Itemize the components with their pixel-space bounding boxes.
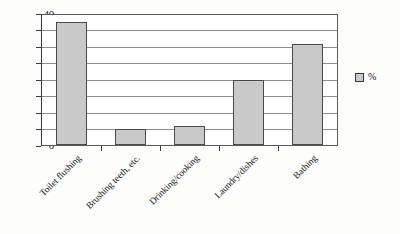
bar-brushing-teeth-etc[interactable]: [115, 129, 147, 145]
bar-slot: [42, 15, 101, 145]
x-axis-tick-mark: [278, 146, 279, 151]
bar-series: [42, 15, 337, 145]
legend: %: [355, 72, 376, 82]
x-axis-tick-mark: [101, 146, 102, 151]
x-axis-tick-mark: [160, 146, 161, 151]
x-axis-tick-mark: [219, 146, 220, 151]
bar-laundry-dishes[interactable]: [233, 80, 265, 145]
bar-drinking-cooking[interactable]: [174, 126, 206, 146]
bar-slot: [101, 15, 160, 145]
bar-bathing[interactable]: [292, 44, 324, 145]
legend-swatch-icon: [355, 73, 364, 82]
bar-slot: [160, 15, 219, 145]
bar-slot: [278, 15, 337, 145]
bar-chart: 40 35 30 25 20 15 10 5 0: [0, 0, 400, 234]
bar-slot: [219, 15, 278, 145]
bar-toilet-flushing[interactable]: [56, 22, 88, 146]
legend-label-percent: %: [368, 72, 376, 82]
y-axis-tick-mark: [36, 146, 41, 147]
